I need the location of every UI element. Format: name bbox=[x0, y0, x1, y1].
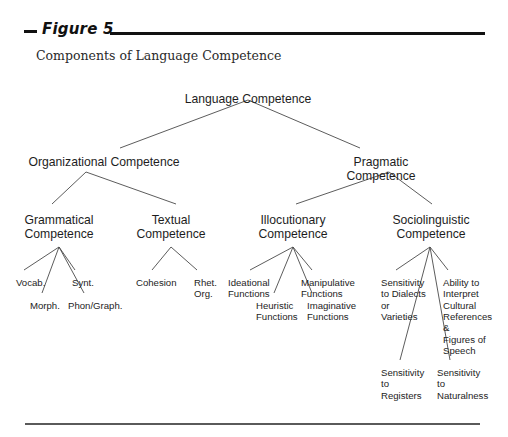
tree-node-phon: Phon/Graph. bbox=[68, 300, 122, 311]
tree-node-rhet: Rhet. Org. bbox=[194, 277, 217, 300]
tree-node-ideational: Ideational Functions bbox=[228, 277, 270, 300]
tree-node-natural: Sensitivity to Naturalness bbox=[437, 367, 488, 401]
tree-node-prag: Pragmatic Competence bbox=[318, 155, 445, 184]
tree-node-registers: Sensitivity to Registers bbox=[381, 367, 424, 401]
tree-node-heuristic: Heuristic Functions bbox=[256, 300, 298, 323]
tree-node-illoc: Illocutionary Competence bbox=[258, 213, 327, 242]
tree-node-dialects: Sensitivity to Dialects or Varieties bbox=[381, 277, 426, 322]
tree-node-root: Language Competence bbox=[185, 92, 312, 106]
tree-node-synt: Synt. bbox=[72, 277, 94, 288]
tree-node-org: Organizational Competence bbox=[28, 155, 179, 169]
tree-node-layer: Language CompetenceOrganizational Compet… bbox=[0, 0, 508, 437]
tree-node-socio: Sociolinguistic Competence bbox=[392, 213, 469, 242]
figure-page: Figure 5 Components of Language Competen… bbox=[0, 0, 508, 437]
tree-node-morph: Morph. bbox=[30, 300, 60, 311]
tree-node-cohesion: Cohesion bbox=[136, 277, 177, 288]
tree-node-text: Textual Competence bbox=[136, 213, 205, 242]
figure-bottom-rule bbox=[25, 423, 480, 425]
tree-node-imag: Imaginative Functions bbox=[307, 300, 356, 323]
tree-node-vocab: Vocab. bbox=[16, 277, 45, 288]
tree-node-manip: Manipulative Functions bbox=[301, 277, 355, 300]
tree-node-cultural: Ability to Interpret Cultural References… bbox=[443, 277, 492, 356]
tree-node-gram: Grammatical Competence bbox=[24, 213, 93, 242]
